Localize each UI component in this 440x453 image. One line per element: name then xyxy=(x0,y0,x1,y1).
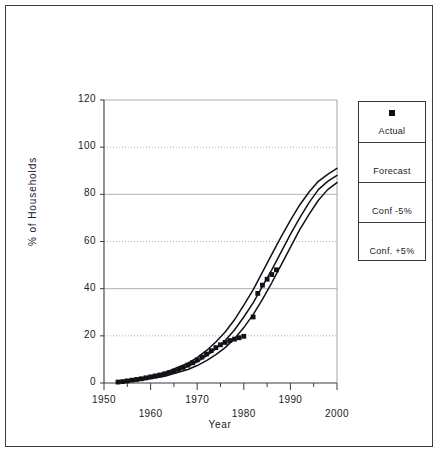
legend-entry[interactable]: Forecast xyxy=(359,142,425,182)
series-line xyxy=(118,183,337,383)
y-tick-label: 20 xyxy=(62,329,96,340)
legend-label: Actual xyxy=(359,126,425,136)
legend-label: Forecast xyxy=(359,166,425,176)
x-tick-label: 1960 xyxy=(129,408,173,419)
x-tick-label: 1990 xyxy=(268,394,312,405)
square-marker-icon xyxy=(389,110,395,116)
chart-legend: ActualForecastConf -5%Conf. +5% xyxy=(358,101,426,261)
x-axis-title: Year xyxy=(150,419,290,430)
legend-entry[interactable]: Actual xyxy=(359,102,425,142)
x-tick-label: 1980 xyxy=(222,408,266,419)
series-line xyxy=(118,168,337,382)
y-tick-label: 40 xyxy=(62,282,96,293)
y-tick-label: 80 xyxy=(62,187,96,198)
y-axis-title: % of Households xyxy=(27,122,38,282)
y-tick-label: 120 xyxy=(62,93,96,104)
x-tick-label: 1950 xyxy=(82,394,126,405)
x-axis-ticks xyxy=(104,383,337,390)
x-tick-label: 2000 xyxy=(315,408,359,419)
legend-label: Conf. +5% xyxy=(359,246,425,256)
legend-line-sample-icon xyxy=(359,189,425,199)
y-tick-label: 100 xyxy=(62,140,96,151)
x-tick-label: 1970 xyxy=(175,394,219,405)
legend-line-sample-icon xyxy=(359,229,425,239)
legend-square-marker-icon xyxy=(359,108,425,118)
data-series xyxy=(116,168,337,384)
data-point-marker xyxy=(241,334,246,339)
y-tick-label: 60 xyxy=(62,235,96,246)
legend-entry[interactable]: Conf. +5% xyxy=(359,222,425,262)
legend-label: Conf -5% xyxy=(359,206,425,216)
legend-entry[interactable]: Conf -5% xyxy=(359,182,425,222)
y-tick-label: 0 xyxy=(62,376,96,387)
series-line xyxy=(118,175,337,382)
gridlines xyxy=(104,100,337,336)
legend-line-sample-icon xyxy=(359,149,425,159)
